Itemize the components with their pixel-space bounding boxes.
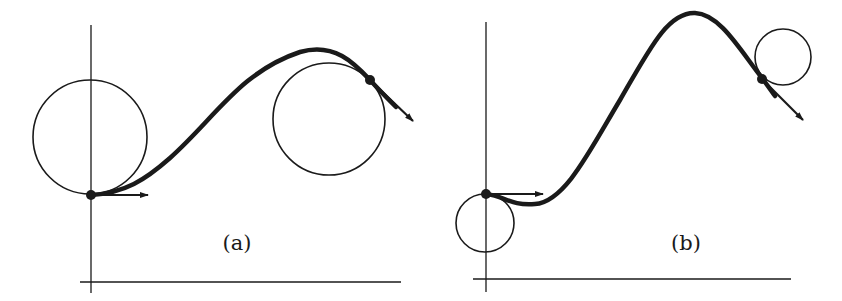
panel-b: (b): [456, 13, 811, 292]
panel-label: (a): [223, 231, 252, 255]
panel-label: (b): [671, 231, 701, 255]
curve: [91, 49, 396, 195]
start-point: [86, 190, 96, 200]
end-tangent-arrow: [370, 80, 413, 121]
start-osculating-circle: [33, 80, 147, 194]
panel-a: (a): [33, 25, 413, 293]
start-point: [481, 189, 491, 199]
end-point: [365, 75, 375, 85]
end-point: [757, 74, 767, 84]
osculating-circles-figure: (a) (b): [0, 0, 842, 301]
curve: [486, 13, 775, 204]
start-osculating-circle: [456, 194, 514, 252]
